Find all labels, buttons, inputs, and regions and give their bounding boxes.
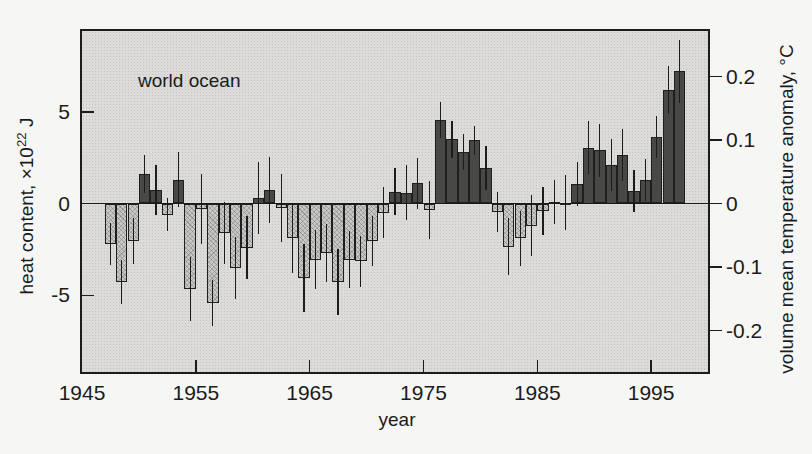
zero-line xyxy=(82,203,708,205)
y-right-tick-0 xyxy=(710,203,722,205)
error-bar-1984 xyxy=(520,211,521,266)
error-bar-1977 xyxy=(440,102,441,139)
error-bar-1974 xyxy=(406,165,407,220)
error-bar-1961 xyxy=(258,162,259,234)
x-tick-1955 xyxy=(195,360,197,372)
x-tick-1995 xyxy=(650,360,652,372)
x-tick-label-1995: 1995 xyxy=(616,381,686,405)
error-bar-1980 xyxy=(474,126,475,155)
x-tick-label-1965: 1965 xyxy=(275,381,345,405)
y-left-tick-label--5: -5 xyxy=(26,283,70,307)
y-right-tick-label--0.2: -0.2 xyxy=(726,319,762,343)
x-tick-1965 xyxy=(309,360,311,372)
error-bar-1993 xyxy=(622,129,623,180)
error-bar-1973 xyxy=(394,168,395,216)
error-bar-1969 xyxy=(349,231,350,288)
error-bar-1996 xyxy=(656,116,657,158)
x-tick-label-1985: 1985 xyxy=(502,381,572,405)
y-left-label-superscript: 22 xyxy=(14,132,29,147)
y-right-tick-label--0.1: -0.1 xyxy=(726,255,762,279)
y-left-tick-0 xyxy=(82,203,94,205)
error-bar-1965 xyxy=(303,244,304,312)
x-tick-label-1955: 1955 xyxy=(161,381,231,405)
chart-title: world ocean xyxy=(138,70,240,92)
error-bar-1950 xyxy=(133,218,134,264)
y-right-tick--0.1 xyxy=(710,266,722,268)
error-bar-1960 xyxy=(246,216,247,278)
error-bar-1986 xyxy=(542,187,543,235)
error-bar-1972 xyxy=(383,187,384,238)
error-bar-1997 xyxy=(668,66,669,114)
error-bar-1983 xyxy=(508,218,509,275)
error-bar-1991 xyxy=(599,124,600,177)
error-bar-1998 xyxy=(679,40,680,102)
error-bar-1963 xyxy=(281,174,282,242)
ocean-heat-content-figure: world ocean year heat content, ×1022 J v… xyxy=(0,0,812,454)
error-bar-1982 xyxy=(497,192,498,232)
x-tick-label-1945: 1945 xyxy=(47,381,117,405)
y-right-tick--0.2 xyxy=(710,330,722,332)
y-right-tick-0.2 xyxy=(710,76,722,78)
error-bar-1966 xyxy=(315,230,316,289)
error-bar-1949 xyxy=(121,260,122,304)
error-bar-1981 xyxy=(485,146,486,190)
error-bar-1964 xyxy=(292,204,293,274)
x-tick-label-1975: 1975 xyxy=(388,381,458,405)
error-bar-1987 xyxy=(554,180,555,224)
y-left-tick--5 xyxy=(82,295,94,297)
error-bar-1959 xyxy=(235,237,236,299)
error-bar-1992 xyxy=(611,139,612,190)
error-bar-1978 xyxy=(451,121,452,158)
error-bar-1956 xyxy=(201,174,202,244)
error-bar-1954 xyxy=(178,152,179,207)
error-bar-1970 xyxy=(360,236,361,287)
error-bar-1971 xyxy=(372,216,373,266)
y-left-tick-5 xyxy=(82,111,94,113)
error-bar-1976 xyxy=(429,181,430,240)
error-bar-1995 xyxy=(645,159,646,201)
y-right-tick-0.1 xyxy=(710,139,722,141)
x-axis-label: year xyxy=(347,409,447,431)
error-bar-1962 xyxy=(269,157,270,223)
y-right-tick-label-0.2: 0.2 xyxy=(726,65,755,89)
error-bar-1948 xyxy=(110,223,111,265)
error-bar-1975 xyxy=(417,158,418,209)
x-tick-1975 xyxy=(423,360,425,372)
y-right-tick-label-0.1: 0.1 xyxy=(726,128,755,152)
error-bar-1990 xyxy=(588,121,589,174)
error-bar-1952 xyxy=(155,165,156,215)
error-bar-1967 xyxy=(326,224,327,283)
error-bar-1979 xyxy=(463,134,464,171)
error-bar-1957 xyxy=(212,280,213,326)
error-bar-1989 xyxy=(577,162,578,206)
y-right-tick-label-0: 0 xyxy=(726,192,738,216)
y-left-tick-label-0: 0 xyxy=(26,192,70,216)
error-bar-1958 xyxy=(224,202,225,264)
y-left-tick-label-5: 5 xyxy=(26,100,70,124)
error-bar-1955 xyxy=(190,257,191,321)
error-bar-1985 xyxy=(531,195,532,256)
error-bar-1994 xyxy=(633,170,634,212)
x-tick-1985 xyxy=(537,360,539,372)
y-left-label-text: heat content, ×10 xyxy=(16,147,37,294)
error-bar-1968 xyxy=(337,249,338,315)
error-bar-1951 xyxy=(144,155,145,194)
y-axis-label-right: volume mean temperature anomaly, °C xyxy=(774,14,800,404)
